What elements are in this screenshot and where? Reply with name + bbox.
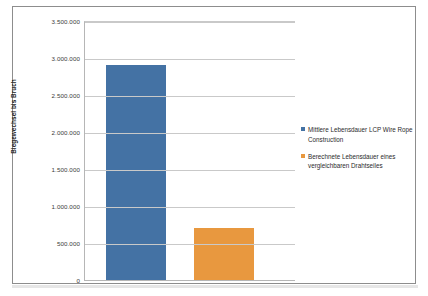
- gridline: [85, 244, 295, 245]
- chart-legend: Mittlere Lebensdauer LCP Wire Rope Const…: [301, 125, 417, 178]
- y-axis-tick-label: 1.500.000: [52, 166, 80, 173]
- y-axis-tick-label: 3.500.000: [52, 18, 80, 25]
- legend-swatch-icon: [301, 154, 305, 158]
- y-axis-tick-label: 500.000: [57, 240, 80, 247]
- legend-item-label: Berechnete Lebensdauer eines vergleichba…: [308, 152, 417, 172]
- y-axis-tick-label: 3.000.000: [52, 55, 80, 62]
- legend-swatch-icon: [301, 127, 305, 131]
- chart-page: 3.500.0003.000.0002.500.0002.000.0001.50…: [0, 0, 428, 296]
- y-axis-tick-label: 1.000.000: [52, 203, 80, 210]
- legend-item[interactable]: Berechnete Lebensdauer eines vergleichba…: [301, 152, 417, 172]
- x-axis-line: [84, 280, 295, 281]
- gridline: [85, 207, 295, 208]
- gridline: [85, 96, 295, 97]
- gridline: [85, 170, 295, 171]
- y-axis-tick-label: 2.000.000: [52, 129, 80, 136]
- gridline: [85, 59, 295, 60]
- bar-series-2[interactable]: [194, 228, 254, 280]
- plot-area: [84, 21, 295, 280]
- bar-series-1[interactable]: [106, 65, 166, 280]
- gridline: [85, 22, 295, 23]
- legend-item-label: Mittlere Lebensdauer LCP Wire Rope Const…: [308, 125, 417, 145]
- y-axis-ticks: 3.500.0003.000.0002.500.0002.000.0001.50…: [20, 0, 80, 296]
- y-axis-tick-label: 2.500.000: [52, 92, 80, 99]
- y-axis-title: Biegewechsel bis Bruch: [10, 75, 17, 159]
- gridline: [85, 133, 295, 134]
- legend-item[interactable]: Mittlere Lebensdauer LCP Wire Rope Const…: [301, 125, 417, 145]
- y-axis-tick-label: 0: [76, 277, 80, 284]
